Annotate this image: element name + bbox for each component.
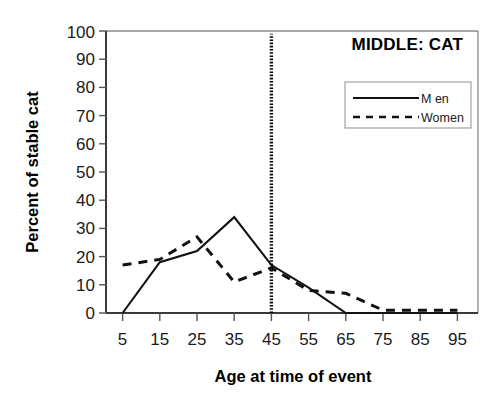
x-axis-ticks: [123, 313, 458, 321]
data-series-group: [123, 217, 458, 313]
x-tick-label-55: 55: [299, 330, 318, 349]
chart-canvas: 0 10 20 30 40 50 60 70 80 90 100 5: [0, 0, 498, 399]
y-tick-label-0: 0: [86, 304, 95, 323]
series-line-men: [123, 217, 458, 313]
x-tick-label-15: 15: [150, 330, 169, 349]
x-tick-label-25: 25: [188, 330, 207, 349]
y-axis-tick-labels: 0 10 20 30 40 50 60 70 80 90 100: [67, 23, 95, 324]
y-axis-title: Percent of stable cat: [23, 91, 41, 253]
legend: M en Women: [345, 82, 471, 128]
y-tick-label-60: 60: [76, 135, 95, 154]
y-tick-label-70: 70: [76, 107, 95, 126]
x-tick-label-75: 75: [374, 330, 393, 349]
x-tick-label-85: 85: [411, 330, 430, 349]
legend-label-men: M en: [421, 92, 449, 106]
x-tick-label-35: 35: [225, 330, 244, 349]
chart-container: 0 10 20 30 40 50 60 70 80 90 100 5: [0, 0, 498, 399]
y-tick-label-90: 90: [76, 50, 95, 69]
y-tick-label-100: 100: [67, 23, 95, 42]
y-tick-label-10: 10: [76, 276, 95, 295]
y-tick-label-80: 80: [76, 78, 95, 97]
y-tick-label-40: 40: [76, 191, 95, 210]
y-tick-label-20: 20: [76, 248, 95, 267]
x-tick-label-65: 65: [336, 330, 355, 349]
legend-label-women: Women: [421, 111, 464, 125]
plot-title: MIDDLE: CAT: [352, 35, 464, 54]
x-tick-label-45: 45: [262, 330, 281, 349]
x-axis-title: Age at time of event: [215, 367, 372, 385]
x-tick-label-5: 5: [118, 330, 127, 349]
series-line-women: [123, 237, 458, 310]
x-axis-tick-labels: 5 15 25 35 45 55 65 75 85 95: [118, 330, 467, 349]
y-axis-ticks: [99, 31, 106, 313]
y-tick-label-30: 30: [76, 219, 95, 238]
x-tick-label-95: 95: [448, 330, 467, 349]
y-tick-label-50: 50: [76, 163, 95, 182]
plot-frame: [106, 31, 478, 313]
